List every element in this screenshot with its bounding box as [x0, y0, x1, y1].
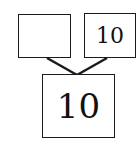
part-right-value: 10: [96, 23, 124, 48]
whole-value: 10: [57, 86, 100, 126]
whole-box[interactable]: 10: [42, 74, 115, 138]
part-box-right[interactable]: 10: [84, 13, 136, 58]
part-box-left[interactable]: [18, 14, 71, 58]
